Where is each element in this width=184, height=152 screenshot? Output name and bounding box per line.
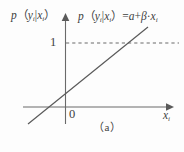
regression-line	[28, 27, 148, 124]
figure-panel: p（yi|xi） p（yi|xi）=a+β·xi 1 0 xi （a）	[0, 0, 184, 152]
y-tick-label-one: 1	[50, 36, 56, 49]
x-axis-title-subscript: i	[168, 115, 170, 123]
x-axis-title: xi	[163, 110, 170, 123]
y-axis-arrowhead	[62, 13, 70, 21]
y-axis-title: p（yi|xi）	[11, 10, 55, 23]
equation-open-paren: （	[84, 10, 95, 22]
origin-label: 0	[69, 108, 75, 121]
y-axis-title-open-paren: （	[17, 9, 28, 21]
y-axis-title-close-paren: ）	[44, 9, 55, 21]
equation-annotation: p（yi|xi）=a+β·xi	[78, 11, 158, 24]
equation-close-paren: ）	[111, 10, 122, 22]
figure-caption: （a）	[93, 122, 121, 133]
equation-x2-subscript: i	[156, 16, 158, 24]
